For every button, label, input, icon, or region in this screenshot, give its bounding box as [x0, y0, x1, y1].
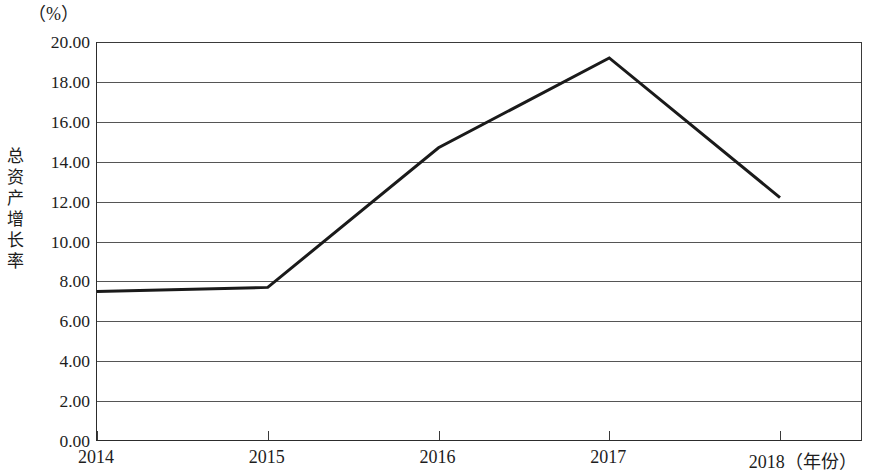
y-axis-tick-label: 16.00 — [12, 111, 90, 132]
plot-area — [96, 42, 862, 441]
y-axis-tick-labels: 20.0018.0016.0014.0012.0010.008.006.004.… — [8, 42, 90, 441]
y-axis-tick-label: 6.00 — [12, 311, 90, 332]
y-axis-tick-label: 18.00 — [12, 71, 90, 92]
x-axis-tick-labels: 20142015201620172018（年份） — [0, 447, 883, 475]
x-axis-tick-label: 2018（年份） — [749, 447, 857, 473]
data-series-line — [97, 42, 863, 441]
x-axis-tick-label: 2017 — [590, 447, 626, 468]
y-axis-tick-label: 14.00 — [12, 151, 90, 172]
x-axis-tick-label: 2014 — [78, 447, 114, 468]
unit-label: （%） — [28, 0, 79, 25]
x-axis-tick-label: 2015 — [249, 447, 285, 468]
y-axis-tick-label: 4.00 — [12, 351, 90, 372]
y-axis-tick-label: 10.00 — [12, 231, 90, 252]
x-axis-tick-label: 2016 — [420, 447, 456, 468]
line-chart: （%） 总 资 产 增 长 率 20.0018.0016.0014.0012.0… — [0, 0, 883, 476]
y-axis-tick-label: 20.00 — [12, 32, 90, 53]
y-axis-tick-label: 8.00 — [12, 271, 90, 292]
y-axis-tick-label: 12.00 — [12, 191, 90, 212]
series-polyline — [97, 58, 780, 291]
y-axis-tick-label: 2.00 — [12, 391, 90, 412]
